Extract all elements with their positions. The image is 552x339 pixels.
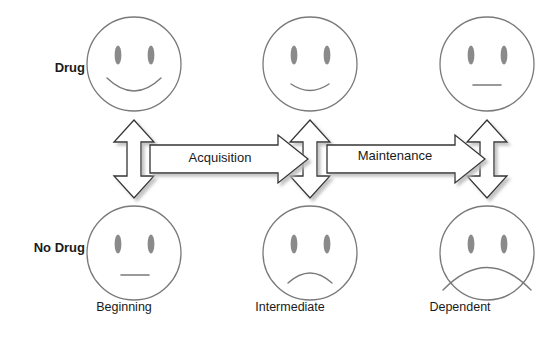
diagram-canvas: Drug No Drug Beginning Intermediate Depe… — [0, 0, 552, 339]
face-outline — [440, 17, 534, 111]
right-eye-icon — [324, 46, 331, 65]
face-drug-intermediate — [263, 17, 357, 111]
face-drug-beginning — [87, 17, 181, 111]
column-label-beginning: Beginning — [64, 300, 184, 314]
left-eye-icon — [115, 46, 122, 65]
right-eye-icon — [148, 46, 155, 65]
right-eye-icon — [148, 235, 155, 254]
vertical-arrow-beginning[interactable] — [114, 120, 154, 198]
face-outline — [263, 17, 357, 111]
left-eye-icon — [291, 235, 298, 254]
row-label-no-drug: No Drug — [0, 240, 85, 255]
double-arrow-shape — [114, 120, 154, 198]
face-nodrug-intermediate — [263, 206, 357, 300]
left-eye-icon — [468, 46, 475, 65]
mouth-big-smile-icon — [107, 78, 161, 91]
face-outline — [87, 17, 181, 111]
right-eye-icon — [324, 235, 331, 254]
mouth-small-smile-icon — [291, 84, 329, 91]
left-eye-icon — [468, 235, 475, 254]
face-outline — [440, 206, 534, 300]
mouth-deep-frown-icon — [443, 268, 531, 291]
face-outline — [263, 206, 357, 300]
left-eye-icon — [115, 235, 122, 254]
face-drug-dependent — [440, 17, 534, 111]
arrow-label-maintenance: Maintenance — [325, 148, 465, 163]
column-label-dependent: Dependent — [400, 300, 520, 314]
face-nodrug-beginning — [87, 206, 181, 300]
column-label-intermediate: Intermediate — [230, 300, 350, 314]
face-nodrug-dependent — [440, 206, 534, 300]
left-eye-icon — [291, 46, 298, 65]
right-eye-icon — [501, 46, 508, 65]
right-eye-icon — [501, 235, 508, 254]
face-outline — [87, 206, 181, 300]
arrow-label-acquisition: Acquisition — [150, 150, 290, 165]
mouth-frown-icon — [288, 273, 332, 283]
diagram-graphics — [0, 0, 552, 339]
row-label-drug: Drug — [0, 60, 85, 75]
